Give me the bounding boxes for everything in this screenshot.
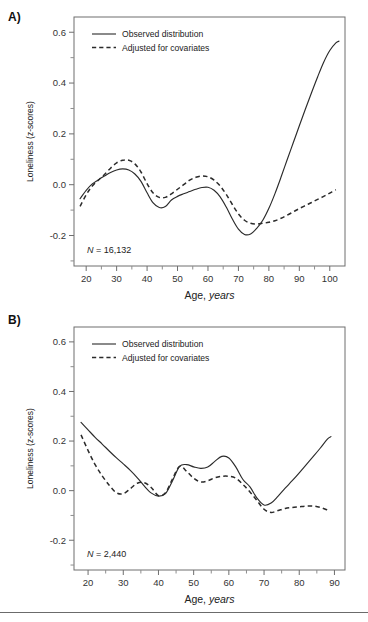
x-tick-label: 60 xyxy=(203,273,214,284)
x-tick-label: 30 xyxy=(111,273,122,284)
panel-a-chart: 0.60.40.20.0-0.22030405060708090100Age, … xyxy=(0,0,368,305)
y-tick-label: 0.2 xyxy=(53,128,66,139)
x-tick-label: 40 xyxy=(142,273,153,284)
series-curve-1 xyxy=(81,422,331,505)
series-curve-2 xyxy=(81,435,327,513)
x-axis-title: Age, years xyxy=(184,593,235,605)
figure-root: A) 0.60.40.20.0-0.22030405060708090100Ag… xyxy=(0,0,368,622)
panel-a-label: A) xyxy=(8,10,21,24)
x-tick-label: 80 xyxy=(264,273,275,284)
x-tick-label: 70 xyxy=(233,273,244,284)
x-tick-label: 100 xyxy=(322,273,338,284)
x-tick-label: 80 xyxy=(294,577,305,588)
x-axis-title-italic: years xyxy=(208,289,235,301)
x-tick-label: 30 xyxy=(118,577,129,588)
sample-size-annotation: N = 2,440 xyxy=(87,549,126,559)
sample-size-symbol: N xyxy=(87,245,96,255)
x-tick-label: 20 xyxy=(83,577,94,588)
y-tick-label: 0.4 xyxy=(53,77,66,88)
footer-divider xyxy=(0,612,368,613)
sample-size-annotation: N = 16,132 xyxy=(87,245,131,255)
legend-label-1: Observed distribution xyxy=(122,29,203,39)
x-tick-label: 50 xyxy=(172,273,183,284)
y-tick-label: 0.0 xyxy=(53,179,66,190)
y-tick-label: -0.2 xyxy=(50,230,66,241)
y-tick-label: 0.6 xyxy=(53,336,66,347)
plot-frame xyxy=(74,17,345,266)
y-tick-label: 0.6 xyxy=(53,27,66,38)
x-tick-label: 90 xyxy=(294,273,305,284)
panel-b: B) 0.60.40.20.0-0.22030405060708090Age, … xyxy=(0,305,368,610)
x-tick-label: 20 xyxy=(81,273,92,284)
y-tick-label: -0.2 xyxy=(50,535,66,546)
y-tick-label: 0.0 xyxy=(53,485,66,496)
panel-b-label: B) xyxy=(8,313,21,327)
x-axis-title-italic: years xyxy=(208,593,235,605)
x-axis-title: Age, years xyxy=(184,289,235,301)
legend-label-2: Adjusted for covariates xyxy=(122,43,209,53)
panel-b-chart: 0.60.40.20.0-0.22030405060708090Age, yea… xyxy=(0,305,368,610)
sample-size-value: = 16,132 xyxy=(96,245,131,255)
x-axis-title-plain: Age, xyxy=(184,593,209,605)
x-tick-label: 90 xyxy=(329,577,340,588)
x-tick-label: 50 xyxy=(188,577,199,588)
plot-frame xyxy=(74,327,345,570)
y-tick-label: 0.2 xyxy=(53,435,66,446)
y-tick-label: 0.4 xyxy=(53,386,66,397)
y-axis-title: Loneliness (z-scores) xyxy=(25,101,35,182)
series-curve-1 xyxy=(80,41,339,235)
sample-size-value: = 2,440 xyxy=(96,549,126,559)
x-tick-label: 70 xyxy=(259,577,270,588)
legend-label-1: Observed distribution xyxy=(122,339,203,349)
y-axis-title: Loneliness (z-scores) xyxy=(25,408,35,489)
x-tick-label: 60 xyxy=(224,577,235,588)
panel-a: A) 0.60.40.20.0-0.22030405060708090100Ag… xyxy=(0,0,368,305)
sample-size-symbol: N xyxy=(87,549,96,559)
x-tick-label: 40 xyxy=(153,577,164,588)
x-axis-title-plain: Age, xyxy=(184,289,209,301)
legend-label-2: Adjusted for covariates xyxy=(122,353,209,363)
